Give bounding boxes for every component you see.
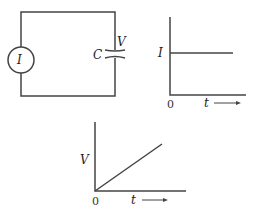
capacitor-label: C — [93, 48, 102, 62]
voltage-time-label: t — [131, 193, 136, 207]
current-graph — [170, 17, 246, 105]
voltage-graph — [95, 122, 186, 202]
current-axis-label: I — [157, 46, 163, 60]
capacitor-plate-bottom — [105, 57, 125, 59]
voltage-line — [95, 144, 162, 191]
voltage-origin-label: 0 — [92, 195, 99, 208]
capacitor-plate-top — [105, 50, 125, 51]
current-time-label: t — [204, 96, 209, 110]
current-graph-axes — [170, 17, 246, 95]
current-source-label: I — [16, 53, 22, 67]
current-origin-label: 0 — [167, 98, 174, 111]
circuit — [8, 12, 125, 96]
voltage-axis-label: V — [80, 153, 90, 167]
diagram-canvas: I C V I 0 t V 0 t — [0, 0, 258, 216]
voltage-label: V — [117, 35, 127, 49]
